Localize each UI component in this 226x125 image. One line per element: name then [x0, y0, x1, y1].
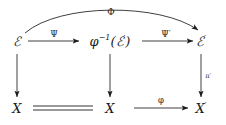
object-top-middle-paren-close: ) — [125, 34, 130, 49]
label-psi: Ψ — [50, 30, 57, 39]
object-bottom-middle: X — [105, 102, 114, 115]
label-psi-prime: Ψ′ — [161, 30, 170, 39]
object-top-middle-exponent: −1 — [99, 33, 111, 42]
object-top-middle-phi: φ — [90, 34, 99, 49]
object-bottom-right: X′ — [195, 101, 206, 114]
object-bottom-right-prime: ′ — [205, 100, 207, 109]
object-bottom-left: X — [12, 102, 21, 115]
object-top-left: ℰ — [13, 35, 21, 48]
object-top-middle-inner: ℰ — [116, 34, 124, 49]
object-top-right-prime: ′ — [204, 33, 206, 42]
object-top-right: ℰ′ — [196, 34, 206, 47]
label-pi-prime: π′ — [205, 73, 211, 80]
object-bottom-middle-text: X — [105, 101, 114, 116]
commutative-diagram: ℰ φ−1(ℰ′) ℰ′ X X X′ Φ Ψ Ψ′ π′ φ — [0, 0, 226, 125]
label-phi-lower: φ — [158, 96, 164, 105]
object-top-middle: φ−1(ℰ′) — [90, 34, 131, 47]
label-capital-phi: Φ — [107, 8, 114, 17]
object-bottom-right-text: X — [195, 101, 204, 116]
object-top-left-text: ℰ — [13, 34, 21, 49]
object-bottom-left-text: X — [12, 101, 21, 116]
object-top-right-text: ℰ — [196, 34, 204, 49]
